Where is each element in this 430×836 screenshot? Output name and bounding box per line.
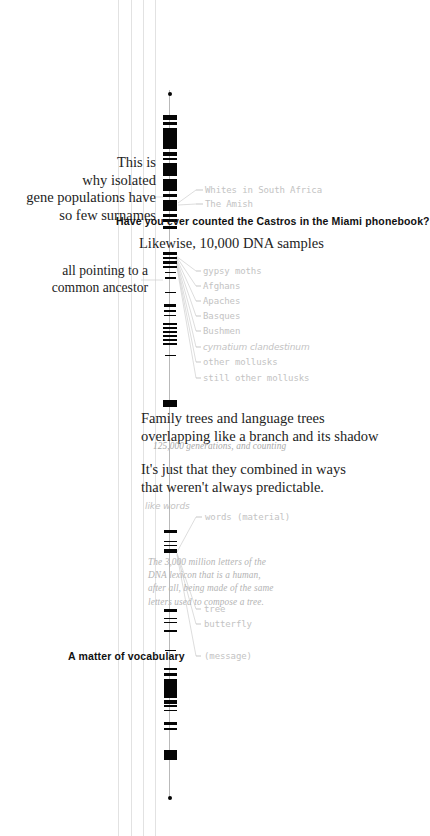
statement-combined: It's just that they combined in ways tha… <box>141 461 409 496</box>
barcode-segment <box>164 710 177 711</box>
barcode-segment <box>163 179 177 191</box>
barcode-segment <box>164 673 177 676</box>
annotation-butterfly: butterfly <box>204 619 252 629</box>
barcode-segment <box>163 158 177 160</box>
barcode-segment <box>163 128 177 149</box>
barcode-segment <box>164 622 177 623</box>
barcode-segment <box>165 277 176 279</box>
statement-common-ancestor: all pointing to a common ancestor <box>0 263 148 296</box>
barcode-segment <box>163 163 177 176</box>
barcode-segment <box>164 705 177 707</box>
note-generations: 125,000 generations, and counting <box>153 440 383 453</box>
barcode-segment <box>164 315 176 316</box>
barcode-segment <box>163 122 177 125</box>
statement-vocabulary: A matter of vocabulary <box>68 650 185 662</box>
barcode-segment <box>164 549 177 553</box>
barcode-segment <box>163 261 177 264</box>
barcode-segment <box>164 722 177 725</box>
barcode-segment <box>165 272 176 273</box>
barcode-segment <box>163 331 177 333</box>
barcode-segment <box>165 355 176 356</box>
barcode-segment <box>164 530 177 533</box>
barcode-segment <box>163 266 177 268</box>
annotation-tree: tree <box>204 604 225 614</box>
barcode-endcap <box>168 92 172 96</box>
annotation-cymatium-clandestinum: cymatium clandestinum <box>203 342 310 352</box>
barcode-segment <box>163 400 177 407</box>
barcode-segment <box>164 679 177 698</box>
barcode-segment <box>164 700 177 704</box>
annotation-basques: Basques <box>203 311 240 321</box>
barcode-segment <box>163 343 177 345</box>
annotation-still-other-mollusks: still other mollusks <box>203 373 309 383</box>
barcode-segment <box>163 115 177 120</box>
annotation-gypsy-moths: gypsy moths <box>203 266 262 276</box>
barcode-segment <box>163 257 177 259</box>
barcode-segment <box>163 323 177 325</box>
guide-rule-1 <box>118 0 119 836</box>
note-dna-lexicon: The 3,000 million letters of the DNA lex… <box>148 556 323 609</box>
barcode-segment <box>163 339 177 341</box>
barcode-segment <box>164 304 176 307</box>
guide-rule-2 <box>131 0 132 836</box>
annotation-the-amish: The Amish <box>205 199 253 209</box>
annotation-other-mollusks: other mollusks <box>203 357 277 367</box>
barcode-segment <box>163 152 177 156</box>
barcode-segment <box>165 292 176 293</box>
barcode-segment <box>164 541 177 542</box>
barcode-segment <box>163 200 177 211</box>
barcode-segment <box>163 335 177 337</box>
annotation-apaches: Apaches <box>203 296 240 306</box>
barcode-segment <box>163 194 177 197</box>
barcode-segment <box>164 618 177 619</box>
statement-castros: Have you ever counted the Castros in the… <box>116 215 430 227</box>
barcode-segment <box>164 545 177 546</box>
annotation-words-material: words (material) <box>205 512 290 522</box>
barcode-segment <box>163 327 177 329</box>
annotation-like-words: like words <box>145 501 190 511</box>
barcode-segment <box>164 728 177 730</box>
barcode-segment <box>164 750 177 760</box>
annotation-bushmen: Bushmen <box>203 326 240 336</box>
barcode-segment <box>164 609 177 612</box>
barcode-endcap <box>168 796 172 800</box>
barcode-segment <box>164 668 177 670</box>
annotation-message: (message) <box>204 651 252 661</box>
barcode-segment <box>164 630 177 632</box>
barcode-segment <box>164 310 176 312</box>
statement-likewise: Likewise, 10,000 DNA samples <box>139 235 399 253</box>
annotation-whites-south-africa: Whites in South Africa <box>205 185 322 195</box>
annotation-afghans: Afghans <box>203 281 240 291</box>
